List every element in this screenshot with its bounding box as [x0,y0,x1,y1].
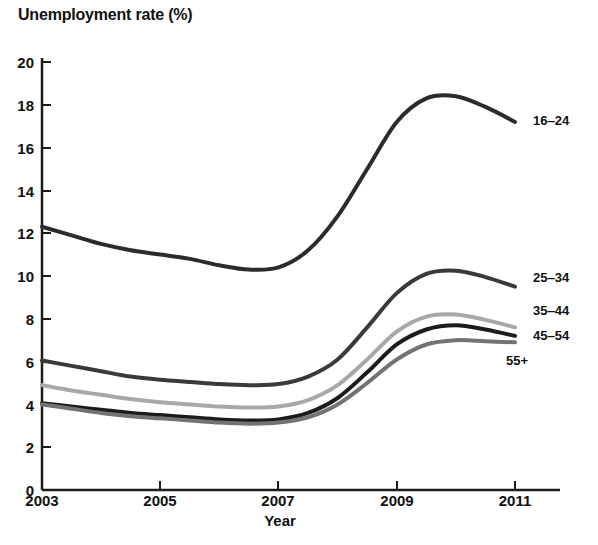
x-tick-label: 2009 [367,492,427,509]
y-tick-label: 10 [4,268,34,285]
x-axis-tick-marks [42,481,515,490]
y-tick-label: 12 [4,225,34,242]
series-label-0: 16‒24 [533,113,569,128]
x-tick-label: 2005 [130,492,190,509]
series-label-2: 35‒44 [533,303,569,318]
y-tick-label: 14 [4,183,34,200]
y-tick-label: 2 [4,439,34,456]
y-tick-label: 18 [4,97,34,114]
series-label-3: 45‒54 [533,328,569,343]
series-line-2 [42,314,515,407]
y-tick-label: 20 [4,54,34,71]
x-tick-label: 2011 [485,492,545,509]
plot-area [0,0,598,545]
y-tick-label: 6 [4,354,34,371]
series-line-0 [42,95,515,270]
x-tick-label: 2003 [12,492,72,509]
axis-lines [42,58,560,490]
series-lines [42,95,515,424]
y-tick-label: 4 [4,397,34,414]
x-tick-label: 2007 [248,492,308,509]
y-tick-label: 16 [4,140,34,157]
y-axis-tick-marks [42,62,51,490]
y-tick-label: 8 [4,311,34,328]
unemployment-rate-line-chart: Unemployment rate (%) 20181614121086420 … [0,0,598,545]
series-label-4: 55+ [506,353,528,368]
series-label-1: 25‒34 [533,270,569,285]
x-axis-title: Year [0,512,560,529]
